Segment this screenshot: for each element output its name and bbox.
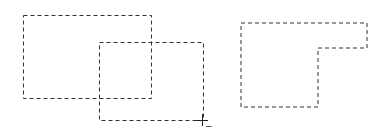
crosshair-subtract-cursor-icon: − bbox=[196, 114, 213, 131]
subtract-modifier-icon: − bbox=[205, 121, 213, 131]
selection-rect-2 bbox=[100, 43, 204, 121]
selection-canvas[interactable]: − bbox=[0, 0, 388, 140]
selection-result-shape bbox=[241, 23, 367, 107]
selection-rect-1 bbox=[24, 16, 152, 99]
